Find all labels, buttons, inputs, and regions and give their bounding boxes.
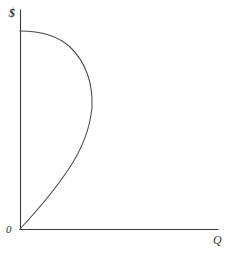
x-axis-label: Q: [213, 234, 222, 246]
origin-label: 0: [6, 224, 12, 235]
figure-background: [0, 0, 237, 255]
y-axis-label: $: [9, 7, 15, 19]
figure-container: $ 0 Q: [0, 0, 237, 255]
curve-diagram-svg: [0, 0, 237, 255]
